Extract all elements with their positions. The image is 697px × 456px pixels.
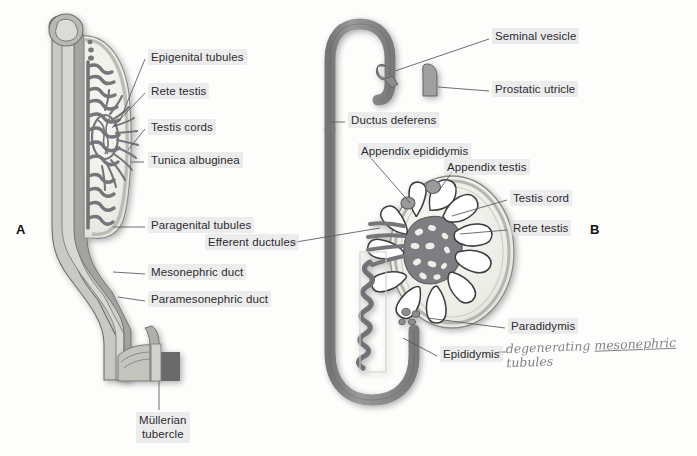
leader-seminal-vesicle bbox=[395, 39, 489, 71]
note-line-3: tubules bbox=[506, 354, 553, 371]
label-appendix-epididymis: Appendix epididymis bbox=[358, 143, 471, 159]
label-testis-cords: Testis cords bbox=[148, 119, 216, 135]
label-tunica-albuginea: Tunica albuginea bbox=[148, 152, 243, 168]
panel-a-artwork bbox=[49, 14, 138, 380]
label-paragenital-tubules: Paragenital tubules bbox=[148, 217, 254, 233]
leader-prostatic-utricle bbox=[438, 87, 489, 91]
label-appendix-testis: Appendix testis bbox=[444, 159, 530, 175]
leader-mesonephric-duct bbox=[113, 272, 145, 274]
anatomical-figure: Epigenital tubulesRete testisTestis cord… bbox=[0, 0, 697, 456]
label-mesonephric-duct: Mesonephric duct bbox=[148, 264, 246, 280]
panel-b-artwork bbox=[330, 24, 514, 400]
leader-paramesonephric-duct bbox=[118, 297, 145, 301]
leader-epididymis bbox=[403, 338, 437, 356]
label-seminal-vesicle: Seminal vesicle bbox=[492, 28, 579, 44]
label-paradidymis: Paradidymis bbox=[508, 318, 578, 334]
note-line-2-underlined: mesonephric bbox=[594, 335, 676, 353]
leader-appendix-epididymis bbox=[370, 157, 410, 203]
label-rete-testis-a: Rete testis bbox=[148, 83, 209, 99]
label-rete-testis-b: Rete testis bbox=[510, 220, 571, 236]
label-epigenital-tubules: Epigenital tubules bbox=[148, 49, 247, 65]
label-testis-cord-b: Testis cord bbox=[510, 190, 572, 206]
label-prostatic-utricle: Prostatic utricle bbox=[492, 81, 578, 97]
epididymis-art bbox=[359, 262, 373, 368]
label-mullerian-tubercle: Müllerian tubercle bbox=[136, 412, 190, 443]
panel-letter-b: B bbox=[590, 222, 599, 237]
label-ductus-deferens: Ductus deferens bbox=[348, 112, 439, 128]
label-efferent-ductules: Efferent ductules bbox=[205, 234, 299, 250]
label-paramesonephric-duct: Paramesonephric duct bbox=[148, 291, 271, 307]
mesonephros-knob bbox=[49, 14, 83, 46]
label-epididymis: Epididymis bbox=[440, 346, 503, 362]
prostatic-utricle-art bbox=[423, 64, 437, 96]
panel-letter-a: A bbox=[16, 222, 25, 237]
appendix-epididymis-art bbox=[401, 197, 415, 209]
